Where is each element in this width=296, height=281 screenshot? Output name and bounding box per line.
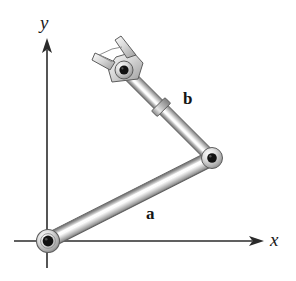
y-axis-label: y bbox=[40, 13, 48, 32]
link-a-label: a bbox=[146, 205, 155, 222]
base-pivot-pin-glint bbox=[45, 238, 48, 241]
x-axis-label: x bbox=[270, 230, 278, 249]
elbow-pivot-pin-glint bbox=[209, 155, 211, 157]
elbow-pivot-pin bbox=[207, 153, 217, 163]
link-a-highlight bbox=[50, 157, 208, 238]
elbow-pivot bbox=[202, 148, 223, 169]
diagram-canvas bbox=[0, 0, 296, 281]
wrist-pivot bbox=[115, 61, 133, 79]
base-pivot-pin bbox=[43, 236, 54, 247]
wrist-pivot-pin bbox=[119, 65, 128, 74]
link-a-body bbox=[45, 151, 216, 247]
link-b-label: b bbox=[183, 90, 192, 107]
base-pivot bbox=[37, 230, 60, 253]
wrist-pivot-pin-glint bbox=[121, 67, 123, 69]
mechanism-diagram: x y a b bbox=[0, 0, 296, 281]
fork-prong-upper bbox=[115, 36, 136, 58]
link-a bbox=[45, 151, 216, 247]
link-b-highlight bbox=[124, 72, 209, 157]
